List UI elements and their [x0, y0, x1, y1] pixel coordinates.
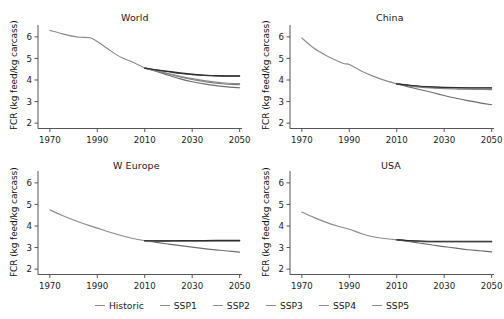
figure-multipanel-fcr-projections: FCR (kg feed/kg carcass) World 23456 197…: [0, 0, 504, 319]
xtick-label: 1970: [39, 135, 61, 145]
xtick-label: 2010: [386, 135, 408, 145]
panel-grid: FCR (kg feed/kg carcass) World 23456 197…: [0, 0, 504, 292]
panel-china-axes: [290, 25, 494, 129]
panel-w-europe-title: W Europe: [113, 160, 160, 171]
legend-line-icon: [266, 305, 276, 306]
series-line-historic: [302, 212, 397, 240]
ytick-label: 4: [279, 221, 284, 231]
series-line-historic: [50, 210, 145, 241]
panel-china-title: China: [376, 12, 404, 23]
xtick-label: 2050: [229, 135, 251, 145]
ytick-label: 6: [279, 32, 284, 42]
xtick-label: 1970: [291, 135, 313, 145]
xtick-label: 1990: [338, 135, 360, 145]
series-line-historic: [50, 30, 145, 68]
panel-w-europe-plot: 23456 19701990201020302050: [0, 155, 252, 292]
panel-usa: FCR (kg feed/kg carcass) USA 23456 19701…: [252, 155, 504, 292]
legend-label: SSP5: [386, 300, 409, 311]
panel-usa-yticks: 23456: [279, 178, 290, 274]
xtick-label: 2050: [481, 281, 503, 291]
panel-w-europe-ylabel: FCR (kg feed/kg carcass): [9, 167, 19, 277]
xtick-label: 2050: [481, 135, 503, 145]
panel-world-yticks: 23456: [27, 32, 38, 128]
legend-line-icon: [372, 305, 382, 306]
xtick-label: 1990: [86, 281, 108, 291]
series-line-historic: [302, 38, 397, 84]
xtick-label: 2030: [181, 135, 203, 145]
ytick-label: 3: [27, 97, 32, 107]
ytick-label: 3: [27, 243, 32, 253]
panel-world-series: [50, 30, 240, 87]
panel-usa-title: USA: [381, 160, 401, 171]
panel-usa-ylabel: FCR (kg feed/kg carcass): [261, 167, 271, 277]
panel-usa-plot: 23456 19701990201020302050: [252, 155, 504, 292]
series-line-ssp5: [397, 240, 492, 242]
xtick-label: 2030: [433, 135, 455, 145]
panel-usa-xticks: 19701990201020302050: [291, 275, 503, 291]
panel-world-plot: 23456 19701990201020302050: [0, 0, 252, 155]
legend-line-icon: [160, 305, 170, 306]
xtick-label: 2010: [134, 281, 156, 291]
ytick-label: 3: [279, 97, 284, 107]
ytick-label: 4: [279, 75, 284, 85]
xtick-label: 2010: [386, 281, 408, 291]
legend-item-ssp5[interactable]: SSP5: [372, 300, 409, 311]
panel-world-xticks: 19701990201020302050: [39, 129, 251, 145]
ytick-label: 6: [27, 32, 32, 42]
panel-usa-series: [302, 212, 492, 252]
panel-china-ylabel: FCR (kg feed/kg carcass): [261, 20, 271, 130]
xtick-label: 1970: [39, 281, 61, 291]
panel-world-axes: [38, 25, 242, 129]
panel-w-europe-axes: [38, 171, 242, 275]
legend-label: SSP1: [174, 300, 197, 311]
xtick-label: 2010: [134, 135, 156, 145]
series-line-ssp1: [145, 241, 240, 252]
ytick-label: 6: [279, 178, 284, 188]
panel-china-xticks: 19701990201020302050: [291, 129, 503, 145]
panel-world: FCR (kg feed/kg carcass) World 23456 197…: [0, 0, 252, 155]
legend-item-ssp3[interactable]: SSP3: [266, 300, 303, 311]
ytick-label: 6: [27, 178, 32, 188]
panel-w-europe-yticks: 23456: [27, 178, 38, 274]
xtick-label: 2030: [433, 281, 455, 291]
xtick-label: 1990: [86, 135, 108, 145]
panel-world-ylabel: FCR (kg feed/kg carcass): [9, 20, 19, 130]
panel-world-title: World: [121, 12, 149, 23]
legend-label: SSP2: [227, 300, 250, 311]
panel-w-europe-series: [50, 210, 240, 252]
legend-item-ssp1[interactable]: SSP1: [160, 300, 197, 311]
ytick-label: 2: [27, 264, 32, 274]
legend-line-icon: [213, 305, 223, 306]
chart-legend: HistoricSSP1SSP2SSP3SSP4SSP5: [0, 294, 504, 316]
panel-china-series: [302, 38, 492, 105]
ytick-label: 5: [27, 54, 32, 64]
ytick-label: 5: [279, 54, 284, 64]
ytick-label: 5: [27, 200, 32, 210]
panel-china: FCR (kg feed/kg carcass) China 23456 197…: [252, 0, 504, 155]
panel-w-europe: FCR (kg feed/kg carcass) W Europe 23456 …: [0, 155, 252, 292]
legend-item-historic[interactable]: Historic: [95, 300, 144, 311]
legend-label: Historic: [109, 300, 144, 311]
xtick-label: 1990: [338, 281, 360, 291]
panel-china-plot: 23456 19701990201020302050: [252, 0, 504, 155]
ytick-label: 4: [27, 221, 32, 231]
panel-w-europe-xticks: 19701990201020302050: [39, 275, 251, 291]
ytick-label: 3: [279, 243, 284, 253]
ytick-label: 4: [27, 75, 32, 85]
legend-item-ssp4[interactable]: SSP4: [319, 300, 356, 311]
xtick-label: 2030: [181, 281, 203, 291]
ytick-label: 2: [279, 264, 284, 274]
xtick-label: 1970: [291, 281, 313, 291]
panel-china-yticks: 23456: [279, 32, 290, 128]
legend-line-icon: [319, 305, 329, 306]
ytick-label: 2: [279, 118, 284, 128]
ytick-label: 5: [279, 200, 284, 210]
ytick-label: 2: [27, 118, 32, 128]
legend-item-ssp2[interactable]: SSP2: [213, 300, 250, 311]
legend-label: SSP4: [333, 300, 356, 311]
xtick-label: 2050: [229, 281, 251, 291]
legend-label: SSP3: [280, 300, 303, 311]
panel-usa-axes: [290, 171, 494, 275]
legend-line-icon: [95, 305, 105, 306]
